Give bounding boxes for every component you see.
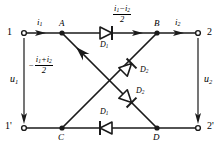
terminal-1-label: 1 (7, 27, 12, 37)
current-i1-label: i1 (37, 18, 42, 28)
voltage-u2-subscript: 2 (209, 78, 212, 85)
node-b-label: B (154, 19, 160, 28)
diode-d1-bottom-label: D1 (100, 108, 108, 117)
node-c-dot (59, 125, 64, 130)
top-branch-numerator: i1−i2 (113, 4, 131, 14)
diagonal-sign: − (29, 61, 34, 70)
diode-d1-bottom-sub: 1 (106, 110, 109, 116)
diode-d2-upper-label: D2 (140, 66, 148, 75)
current-diagonal-fraction: − i1+i2 2 (29, 55, 53, 75)
diode-d2-lower-sub: 2 (142, 89, 145, 95)
terminal-2-prime-dot (196, 126, 201, 131)
terminal-1-prime-dot (22, 126, 27, 131)
diagonal-numerator: i1+i2 (35, 55, 53, 65)
diode-d2-upper-symbol (118, 59, 136, 77)
voltage-u2-label: u2 (204, 74, 212, 85)
node-a-dot (59, 30, 64, 35)
node-b-dot (154, 30, 159, 35)
diag-num-i2-sub: 2 (49, 58, 52, 64)
circuit-canvas (0, 0, 222, 151)
current-top-branch-fraction: i1−i2 2 (113, 4, 131, 24)
diode-d1-top-symbol (100, 26, 112, 40)
current-i2-subscript: 2 (178, 21, 181, 27)
diagonal-fraction-body: i1+i2 2 (35, 55, 53, 75)
voltage-u1-label: u1 (10, 74, 18, 85)
diode-d2-upper-sub: 2 (146, 68, 149, 74)
diode-d1-top-sub: 1 (106, 43, 109, 49)
top-num-i2-sub: 2 (127, 7, 130, 13)
terminal-2-label: 2 (207, 27, 212, 37)
diode-d2-lower-label: D2 (136, 87, 144, 96)
terminal-2-dot (196, 31, 201, 36)
terminal-1-prime-label: 1' (5, 121, 12, 131)
figure-root: 1 2 1' 2' A B C D i1 i2 i1−i2 2 − i1+i2 … (0, 0, 222, 151)
node-d-dot (154, 125, 159, 130)
node-d-label: D (153, 133, 160, 142)
diode-d1-top-label: D1 (100, 41, 108, 50)
current-i2-label: i2 (175, 18, 180, 28)
top-branch-denominator: 2 (113, 14, 131, 24)
voltage-u1-subscript: 1 (15, 78, 18, 85)
node-c-label: C (58, 133, 64, 142)
node-a-label: A (59, 19, 65, 28)
terminal-2-prime-label: 2' (207, 121, 214, 131)
diode-d1-bottom-symbol (100, 121, 112, 135)
terminal-1-dot (22, 31, 27, 36)
current-i1-subscript: 1 (40, 21, 43, 27)
diagonal-denominator: 2 (35, 65, 53, 75)
